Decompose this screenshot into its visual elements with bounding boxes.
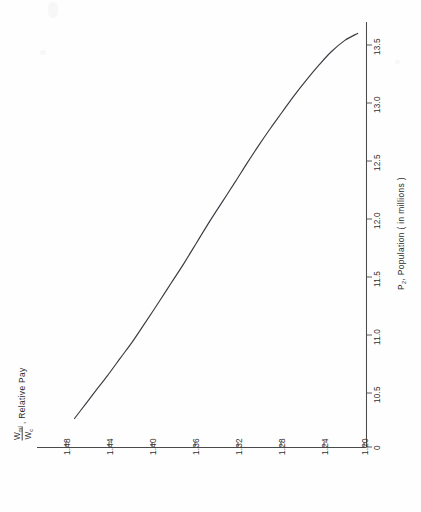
x-tick-label-7: 13.5 <box>373 38 382 55</box>
y-tick-label-2: 1.40 <box>149 438 158 455</box>
y-tick-label-3: 1.36 <box>192 438 201 455</box>
x-tick-label-2: 11.0 <box>373 329 382 345</box>
chart-page: 1.48 1.44 1.40 1.36 1.32 1.28 1.24 1.20 … <box>0 0 421 512</box>
x-tick-label-6: 13.0 <box>373 96 382 113</box>
chart-plot-area: 1.48 1.44 1.40 1.36 1.32 1.28 1.24 1.20 … <box>0 0 421 512</box>
y-axis-numerator-sub: ml <box>17 426 23 432</box>
y-tick-label-4: 1.32 <box>235 438 244 455</box>
x-axis-suffix: , Population ( in millions ) <box>396 177 406 280</box>
y-axis-denominator-group: Wc <box>24 429 34 440</box>
svg-text:P2, Population ( in millions ): P2, Population ( in millions ) <box>396 177 407 290</box>
y-axis-suffix: , Relative Pay <box>17 367 27 424</box>
y-axis-numerator-group: Wml <box>13 426 23 440</box>
x-tick-label-0: 0 <box>373 445 382 450</box>
y-tick-label-6: 1.24 <box>321 438 330 455</box>
y-tick-label-5: 1.28 <box>278 438 287 455</box>
x-tick-label-4: 12.0 <box>373 212 382 229</box>
population-axis-ticks <box>367 45 373 447</box>
x-axis-title: P2, Population ( in millions ) <box>396 177 407 290</box>
y-tick-label-7: 1.20 <box>361 438 370 455</box>
y-axis-denominator-sub: c <box>28 429 34 432</box>
y-axis-title: Wml Wc , Relative Pay <box>13 367 34 441</box>
y-tick-label-0: 1.48 <box>63 438 72 455</box>
data-series-line <box>75 33 358 418</box>
x-tick-label-5: 12.5 <box>373 154 382 171</box>
y-tick-label-1: 1.44 <box>106 438 115 455</box>
x-tick-label-3: 11.5 <box>373 271 382 287</box>
x-tick-label-1: 10.5 <box>373 386 382 403</box>
